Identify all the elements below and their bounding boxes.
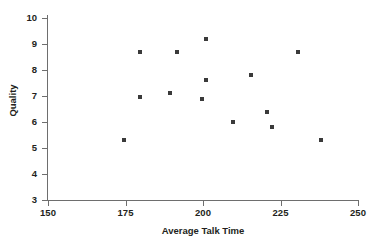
y-axis-tick — [42, 122, 47, 123]
x-axis-tick — [281, 201, 282, 206]
x-axis-tick — [358, 201, 359, 206]
x-axis-tick — [203, 201, 204, 206]
data-point-marker — [168, 91, 172, 95]
data-point-marker — [319, 138, 323, 142]
y-axis-tick — [42, 18, 47, 19]
y-axis-tick-label: 4 — [15, 169, 37, 179]
data-point-marker — [231, 120, 235, 124]
y-axis-tick-label: 3 — [15, 195, 37, 205]
data-point-marker — [270, 125, 274, 129]
y-axis-tick-label: 5 — [15, 143, 37, 153]
y-axis-tick-label: 6 — [15, 117, 37, 127]
data-point-marker — [175, 50, 179, 54]
y-axis-tick-label: 10 — [15, 13, 37, 23]
data-point-marker — [138, 50, 142, 54]
data-point-marker — [265, 110, 269, 114]
y-axis-title: Quality — [7, 71, 18, 131]
x-axis-tick — [48, 201, 49, 206]
x-axis-tick-label: 150 — [28, 208, 68, 218]
x-axis-tick-label: 200 — [183, 208, 223, 218]
y-axis-tick — [42, 174, 47, 175]
y-axis-tick — [42, 96, 47, 97]
data-point-marker — [296, 50, 300, 54]
x-axis-title: Average Talk Time — [48, 225, 358, 236]
y-axis-tick — [42, 70, 47, 71]
data-point-marker — [122, 138, 126, 142]
x-axis-tick — [126, 201, 127, 206]
x-axis-tick-label: 250 — [338, 208, 377, 218]
x-axis-tick-label: 175 — [106, 208, 146, 218]
plot-area — [48, 18, 358, 200]
x-axis-tick-label: 225 — [261, 208, 301, 218]
scatter-plot-figure: 345678910 150175200225250 Average Talk T… — [0, 0, 377, 248]
data-point-marker — [249, 73, 253, 77]
data-point-marker — [204, 37, 208, 41]
y-axis-tick — [42, 200, 47, 201]
data-point-marker — [138, 95, 142, 99]
y-axis-tick-label: 8 — [15, 65, 37, 75]
y-axis-tick — [42, 148, 47, 149]
y-axis-tick-label: 7 — [15, 91, 37, 101]
y-axis-tick — [42, 44, 47, 45]
y-axis-tick-label: 9 — [15, 39, 37, 49]
data-point-marker — [204, 78, 208, 82]
data-point-marker — [200, 97, 204, 101]
